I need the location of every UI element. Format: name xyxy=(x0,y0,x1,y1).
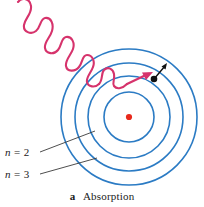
nucleus-dot xyxy=(126,114,132,120)
orbit-label-n2: n = 2 xyxy=(5,146,30,158)
electron-dot xyxy=(151,76,158,83)
caption-text: Absorption xyxy=(83,190,135,202)
orbit-label-n2-value: 2 xyxy=(24,146,30,158)
orbit-label-n3: n = 3 xyxy=(5,168,30,180)
electron-transition xyxy=(151,63,167,82)
caption-letter: a xyxy=(70,190,76,202)
diagram-canvas xyxy=(0,0,204,207)
orbit-label-n2-variable: n xyxy=(5,146,11,158)
photon-wave xyxy=(18,0,99,86)
absorption-diagram-figure: n = 2 n = 3 a Absorption xyxy=(0,0,204,207)
leader-line-n2 xyxy=(40,131,95,152)
orbit-label-n2-equals: = xyxy=(14,146,21,158)
orbit-label-n3-equals: = xyxy=(14,168,21,180)
photon-arrow xyxy=(127,72,153,84)
orbit-label-n3-variable: n xyxy=(5,168,11,180)
figure-caption: a Absorption xyxy=(0,190,204,202)
orbit-label-n3-value: 3 xyxy=(24,168,30,180)
